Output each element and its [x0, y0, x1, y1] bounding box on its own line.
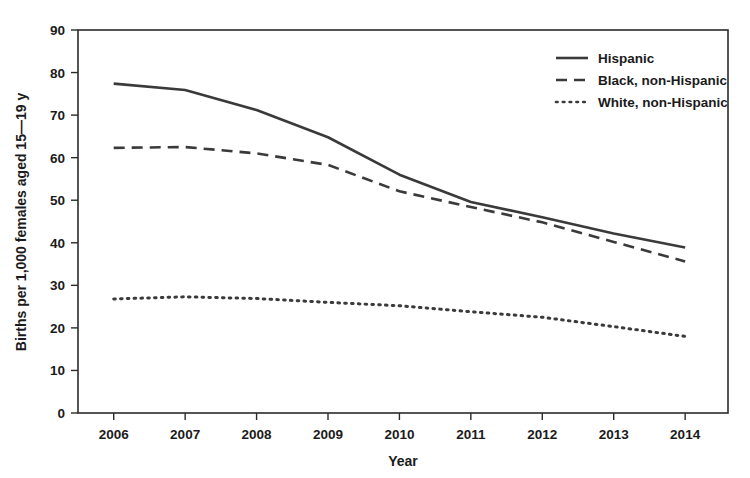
- x-tick-label: 2012: [527, 427, 557, 442]
- x-tick-label: 2014: [670, 427, 701, 442]
- y-tick-label: 70: [50, 108, 65, 123]
- x-tick-label: 2007: [170, 427, 200, 442]
- y-tick-label: 40: [50, 236, 65, 251]
- legend-label: White, non-Hispanic: [598, 95, 728, 110]
- x-tick-label: 2011: [456, 427, 486, 442]
- x-tick-label: 2009: [313, 427, 343, 442]
- y-tick-label: 90: [50, 23, 65, 38]
- line-chart: 0102030405060708090 20062007200820092010…: [0, 0, 750, 478]
- x-axis-tick-labels: 200620072008200920102011201220132014: [99, 427, 701, 442]
- x-tick-label: 2008: [242, 427, 273, 442]
- y-tick-label: 60: [50, 151, 65, 166]
- legend-label: Hispanic: [598, 51, 655, 66]
- legend-label: Black, non-Hispanic: [598, 73, 728, 88]
- y-tick-label: 20: [50, 321, 65, 336]
- x-tick-label: 2006: [99, 427, 130, 442]
- y-tick-label: 30: [50, 278, 65, 293]
- chart-figure: 0102030405060708090 20062007200820092010…: [0, 0, 750, 478]
- x-tick-label: 2013: [599, 427, 630, 442]
- x-axis-title: Year: [388, 453, 418, 469]
- y-tick-label: 80: [50, 66, 65, 81]
- y-tick-label: 10: [50, 363, 65, 378]
- y-tick-label: 50: [50, 193, 65, 208]
- x-tick-label: 2010: [384, 427, 414, 442]
- y-axis-title: Births per 1,000 females aged 15—19 y: [13, 93, 29, 352]
- y-tick-label: 0: [57, 406, 65, 421]
